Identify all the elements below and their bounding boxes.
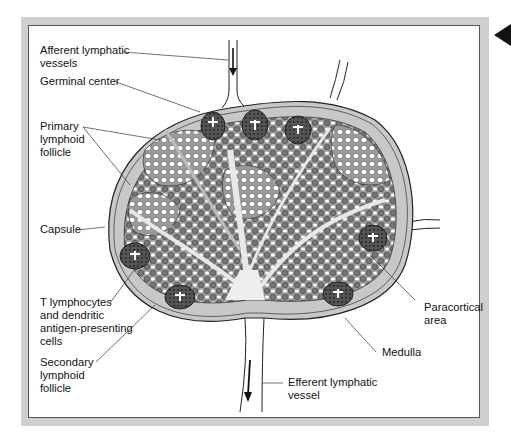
label-t-lymphocytes: T lymphocytes and dendritic antigen-pres… [40,296,133,348]
label-paracortical-area: Paracortical area [424,301,483,327]
label-secondary-lymphoid-follicle: Secondary lymphoid follicle [40,356,94,395]
label-afferent-lymphatic-vessels: Afferent lymphatic vessels [40,44,129,70]
label-primary-lymphoid-follicle: Primary lymphoid follicle [40,120,85,159]
label-germinal-center: Germinal center [40,75,120,88]
label-capsule: Capsule [40,223,81,236]
label-medulla: Medulla [382,346,421,359]
label-efferent-lymphatic-vessel: Efferent lymphatic vessel [288,376,377,402]
